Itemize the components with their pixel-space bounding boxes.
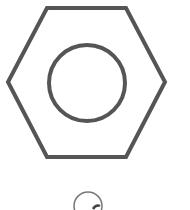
benzene-diagram [0, 0, 190, 210]
aromatic-circle [49, 45, 125, 121]
hexagon-ring [8, 8, 165, 157]
partial-label [74, 192, 102, 210]
label-glyph-partial [93, 205, 100, 209]
label-circle-partial [74, 192, 102, 210]
